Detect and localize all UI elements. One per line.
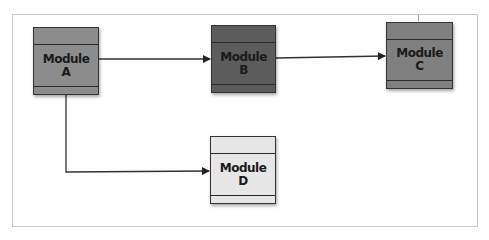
module-c[interactable]: Module C <box>386 22 453 89</box>
module-d[interactable]: Module D <box>210 136 276 204</box>
module-d-footer-band <box>211 195 275 203</box>
module-a-label: Module A <box>34 45 98 86</box>
module-c-id: C <box>415 60 423 73</box>
module-b-id: B <box>239 64 248 77</box>
module-b[interactable]: Module B <box>211 25 276 93</box>
edge-b-to-c <box>276 56 385 58</box>
module-b-header-band <box>212 26 275 43</box>
module-c-header-band <box>387 23 452 40</box>
module-b-title: Module <box>220 51 267 64</box>
module-a-id: A <box>62 66 71 79</box>
module-c-footer-band <box>387 80 452 88</box>
module-b-footer-band <box>212 84 275 92</box>
module-d-label: Module D <box>211 154 275 195</box>
module-c-label: Module C <box>387 40 452 80</box>
module-a-footer-band <box>34 86 98 94</box>
module-b-label: Module B <box>212 43 275 84</box>
module-d-id: D <box>238 175 247 188</box>
module-d-header-band <box>211 137 275 154</box>
module-a-header-band <box>34 28 98 45</box>
edge-a-to-d <box>66 95 209 172</box>
module-d-title: Module <box>220 162 267 175</box>
module-a-title: Module <box>43 53 90 66</box>
module-a[interactable]: Module A <box>33 27 99 95</box>
